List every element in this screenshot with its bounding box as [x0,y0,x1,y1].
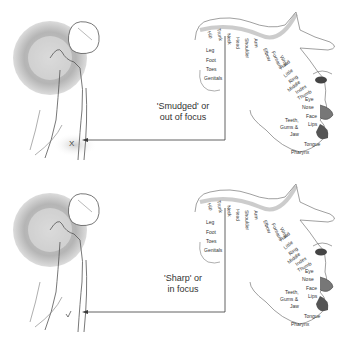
label-foot: Foot [206,229,216,235]
panel-smudged: X 'Smudged' or out of focus Leg Foot Toe… [0,0,357,172]
label-toes: Toes [206,238,217,244]
label-leg: Leg [206,219,214,225]
label-head: Head [235,209,241,221]
label-shoulder: Shoulder [244,38,251,58]
label-neck: Neck [226,33,233,45]
panel-sharp: 'Sharp' or in focus Leg Foot Toes Genita… [0,172,357,344]
label-gums: Gums & [280,124,298,130]
label-neck: Neck [226,205,233,217]
head-sketch [68,194,99,226]
label-tongue: Tongue [304,141,320,147]
label-shoulder: Shoulder [244,210,251,230]
label-toes: Toes [206,66,217,72]
label-genitals: Genitals [204,247,222,253]
caption-line-2: out of focus [138,112,228,123]
label-arm: Arm [253,210,260,220]
label-teeth: Teeth, [285,289,299,295]
label-foot: Foot [206,57,216,63]
label-face: Face [306,113,317,119]
label-gums: Gums & [280,296,298,302]
caption-line-1: 'Smudged' or [138,101,228,112]
caption-line-1: 'Sharp' or [138,273,228,284]
head-sketch [68,22,99,54]
touch-marker: X [69,139,75,148]
touch-marker [66,311,71,317]
label-nose: Nose [302,276,314,282]
label-tongue: Tongue [304,313,320,319]
label-pharynx: Pharynx [291,149,309,155]
label-genitals: Genitals [204,75,222,81]
pointer-line [86,36,225,140]
label-jaw: Jaw [290,303,299,309]
label-lips: Lips [308,293,317,299]
arrow-head [82,310,88,314]
pointer-line [86,208,225,312]
label-pharynx: Pharynx [291,321,309,327]
label-eye: Eye [305,96,314,102]
smudge-area [53,133,97,157]
label-jaw: Jaw [290,131,299,137]
label-lips: Lips [308,121,317,127]
caption-line-2: in focus [138,284,228,295]
label-face: Face [306,285,317,291]
label-head: Head [235,37,241,49]
label-leg: Leg [206,47,214,53]
label-eye: Eye [305,268,314,274]
label-nose: Nose [302,104,314,110]
caption-smudged: 'Smudged' or out of focus [138,101,228,123]
caption-sharp: 'Sharp' or in focus [138,273,228,295]
label-arm: Arm [253,38,260,48]
label-teeth: Teeth, [285,117,299,123]
